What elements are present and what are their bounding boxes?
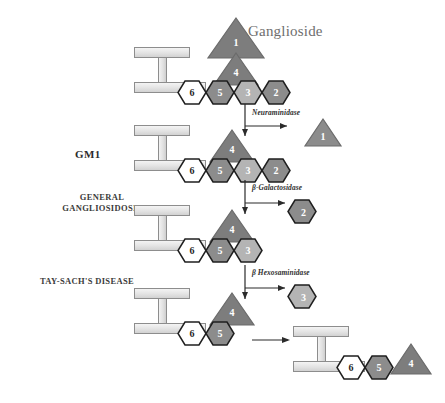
hexagon-6-row-gm2: 6 xyxy=(177,238,207,263)
ceramide-stem xyxy=(317,336,326,362)
hexagon-6-label: 6 xyxy=(177,80,207,105)
product-hexagon-2: 2 xyxy=(287,199,320,226)
hexagon-3-row-ganglioside: 3 xyxy=(233,80,263,105)
hexagon-6-row-gm3: 6 xyxy=(177,321,207,346)
label-gm1: GM1 xyxy=(75,148,101,160)
hexagon-6-label: 6 xyxy=(336,355,366,380)
hexagon-6-row-gm1: 6 xyxy=(177,158,207,183)
hexagon-5-label: 5 xyxy=(205,80,235,105)
hexagon-6-label: 6 xyxy=(177,321,207,346)
ceramide-stem xyxy=(158,215,167,241)
hexagon-5-row-gm1: 5 xyxy=(205,158,235,183)
product-hexagon-3-label: 3 xyxy=(287,284,320,311)
hexagon-5-row-gm2: 5 xyxy=(205,238,235,263)
label-general-gangliosidosis-line2: GANGLIOSIDOSIS xyxy=(62,203,142,213)
hexagon-5-label: 5 xyxy=(205,321,235,346)
hexagon-6-row-ganglioside: 6 xyxy=(177,80,207,105)
triangle-4-label: 4 xyxy=(213,67,259,78)
hexagon-5-row-ganglioside: 5 xyxy=(205,80,235,105)
hexagon-6-label: 6 xyxy=(177,158,207,183)
product-hexagon-3: 3 xyxy=(287,284,320,311)
product-hexagon-2-label: 2 xyxy=(287,199,320,226)
label-tay-sachs-disease: TAY-SACH'S DISEASE xyxy=(22,276,152,287)
triangle-4-row-final: 4 xyxy=(390,343,432,375)
hexagon-5-label: 5 xyxy=(205,238,235,263)
triangle-4-label: 4 xyxy=(209,144,255,155)
label-general-gangliosidosis-line1: GENERAL xyxy=(80,192,125,202)
product-triangle-1-label: 1 xyxy=(304,131,342,142)
triangle-1-label: 1 xyxy=(207,37,265,48)
hexagon-3-label: 3 xyxy=(233,238,263,263)
hexagon-2-row-ganglioside: 2 xyxy=(261,80,291,105)
hexagon-6-row-final: 6 xyxy=(336,355,366,380)
triangle-4-label: 4 xyxy=(390,358,432,369)
product-triangle-1: 1 xyxy=(304,118,342,147)
ceramide-stem xyxy=(158,135,167,161)
triangle-4-label: 4 xyxy=(209,224,255,235)
triangle-4-label: 4 xyxy=(209,307,255,318)
ceramide-stem xyxy=(158,57,167,83)
ceramide-stem xyxy=(158,298,167,324)
reaction-arrow-final xyxy=(252,334,296,346)
hexagon-6-label: 6 xyxy=(177,238,207,263)
hexagon-5-label: 5 xyxy=(205,158,235,183)
hexagon-2-label: 2 xyxy=(261,80,291,105)
hexagon-3-label: 3 xyxy=(233,80,263,105)
hexagon-3-row-gm2: 3 xyxy=(233,238,263,263)
ganglioside-degradation-diagram: Ganglioside 1 4 6 5 3 2 Neuraminidase xyxy=(0,0,445,403)
hexagon-5-row-gm3: 5 xyxy=(205,321,235,346)
